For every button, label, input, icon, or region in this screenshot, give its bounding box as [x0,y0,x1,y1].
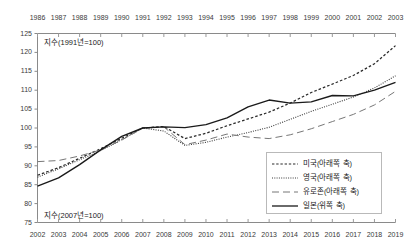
legend-key-eurozone [272,187,298,197]
legend-item-uk[interactable]: 영국(아래쪽 축) [272,171,376,185]
legend-label-us: 미국(아래쪽 축) [303,159,352,169]
legend-label-eurozone: 유로존(아래쪽 축) [303,187,359,197]
legend-label-uk: 영국(아래쪽 축) [303,173,352,183]
chart-container: 1986198719881989199019911992199319941995… [0,0,416,249]
legend-key-japan [272,201,298,211]
legend-item-eurozone[interactable]: 유로존(아래쪽 축) [272,185,376,199]
legend-key-us [272,159,298,169]
legend-key-uk [272,173,298,183]
legend-label-japan: 일본(위쪽 축) [303,201,345,211]
chart-legend: 미국(아래쪽 축) 영국(아래쪽 축) 유로존(아래쪽 축) 일본(위쪽 축) [266,152,382,214]
legend-item-japan[interactable]: 일본(위쪽 축) [272,199,376,213]
legend-item-us[interactable]: 미국(아래쪽 축) [272,157,376,171]
